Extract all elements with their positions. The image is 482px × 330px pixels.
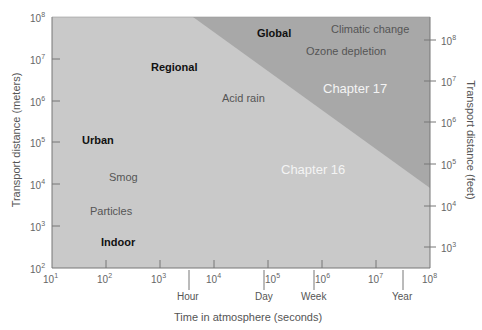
marker-week: Week	[301, 291, 326, 302]
label-urban: Urban	[82, 134, 114, 146]
x-tick-1e2: 102	[97, 272, 112, 285]
label-smog: Smog	[109, 171, 138, 183]
x-tick-1e4: 104	[206, 272, 221, 285]
y-tick-left-1e3: 103	[30, 220, 45, 233]
y-tick-left-1e5: 105	[30, 136, 45, 149]
label-ozone-depletion: Ozone depletion	[306, 45, 386, 57]
marker-hour: Hour	[177, 291, 199, 302]
plot-svg	[0, 0, 482, 330]
y-tick-left-1e6: 106	[30, 95, 45, 108]
y-tick-left-1e7: 107	[30, 53, 45, 66]
marker-day: Day	[255, 291, 273, 302]
label-particles: Particles	[90, 205, 132, 217]
label-chapter-17: Chapter 17	[323, 81, 387, 96]
y-tick-right-1e8: 108	[441, 34, 456, 47]
y-tick-right-1e5: 105	[441, 158, 456, 171]
x-tick-1e7: 107	[368, 272, 383, 285]
y-tick-right-1e3: 103	[441, 241, 456, 254]
y-tick-right-1e7: 107	[441, 75, 456, 88]
x-tick-1e1: 101	[43, 272, 58, 285]
marker-year: Year	[392, 291, 412, 302]
x-axis-title: Time in atmosphere (seconds)	[174, 311, 322, 323]
y-tick-left-1e4: 104	[30, 178, 45, 191]
label-climatic-change: Climatic change	[331, 23, 409, 35]
x-tick-1e8: 108	[422, 272, 437, 285]
x-tick-1e3: 103	[151, 272, 166, 285]
x-tick-1e6: 106	[315, 272, 330, 285]
y-axis-title-right: Transport distance (feet)	[465, 65, 477, 215]
label-acid-rain: Acid rain	[222, 92, 265, 104]
y-tick-right-1e6: 106	[441, 116, 456, 129]
x-tick-1e5: 105	[265, 272, 280, 285]
y-axis-title-left: Transport distance (meters)	[10, 65, 22, 215]
label-chapter-16: Chapter 16	[281, 162, 345, 177]
y-tick-left-1e8: 108	[30, 11, 45, 24]
y-tick-right-1e4: 104	[441, 200, 456, 213]
label-global: Global	[257, 27, 291, 39]
chart: 108 107 106 105 104 103 102 108 107 106 …	[0, 0, 482, 330]
label-indoor: Indoor	[101, 236, 135, 248]
label-regional: Regional	[151, 61, 197, 73]
